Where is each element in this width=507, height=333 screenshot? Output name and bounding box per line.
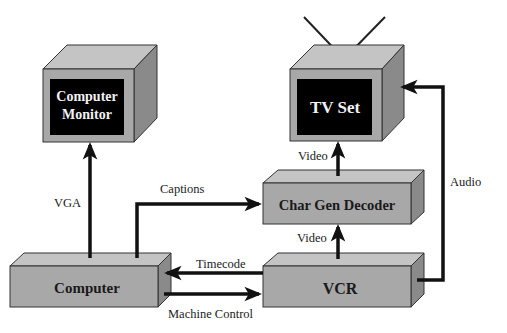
edge-timecode: Timecode <box>167 257 263 273</box>
chargen-label: Char Gen Decoder <box>279 197 396 213</box>
edge-captions: Captions <box>137 182 259 258</box>
captions-label: Captions <box>160 182 205 196</box>
computer-label: Computer <box>54 280 120 296</box>
monitor-label-line2: Monitor <box>62 107 112 122</box>
machine-control-label: Machine Control <box>168 307 254 321</box>
tv-label: TV Set <box>310 98 361 117</box>
computer-node: Computer <box>10 253 171 307</box>
vcr-label: VCR <box>323 280 358 297</box>
monitor-label-line1: Computer <box>56 89 117 104</box>
edge-vga: VGA <box>54 145 90 258</box>
tv-set-node: TV Set <box>290 17 404 141</box>
video-top-label: Video <box>298 149 328 163</box>
vcr-top-face <box>263 253 424 266</box>
computer-monitor-node: Computer Monitor <box>43 45 157 142</box>
char-gen-decoder-node: Char Gen Decoder <box>263 170 424 224</box>
vcr-node: VCR <box>263 253 424 307</box>
audio-label: Audio <box>450 175 481 189</box>
edge-machine-control: Machine Control <box>164 294 259 321</box>
timecode-label: Timecode <box>196 257 246 271</box>
video-bottom-label: Video <box>297 231 327 245</box>
vga-label: VGA <box>54 196 81 210</box>
chargen-top-face <box>263 170 424 183</box>
captions-arrow <box>137 204 259 258</box>
av-signal-diagram: Computer Monitor TV Set Char Gen Decoder… <box>0 0 507 333</box>
